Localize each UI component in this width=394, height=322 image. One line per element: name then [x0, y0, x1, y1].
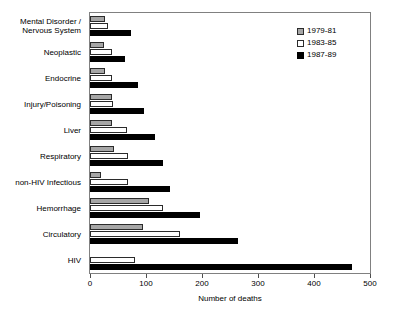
legend-item: 1983-85: [297, 38, 336, 48]
x-tick: [202, 274, 203, 278]
bar: [90, 186, 170, 192]
x-tick: [314, 274, 315, 278]
bar: [90, 127, 127, 133]
bar: [90, 108, 144, 114]
bar-chart: Mental Disorder / Nervous SystemNeoplast…: [0, 0, 394, 322]
bar: [90, 134, 155, 140]
legend: 1979-811983-851987-89: [297, 26, 336, 60]
legend-item: 1979-81: [297, 26, 336, 36]
bar: [90, 94, 112, 100]
bar-group: [90, 221, 370, 247]
bar-group: [90, 247, 370, 273]
category-label: Mental Disorder / Nervous System: [0, 13, 85, 39]
category-axis-labels: Mental Disorder / Nervous SystemNeoplast…: [0, 13, 85, 273]
x-tick-label: 300: [251, 279, 264, 288]
bar: [90, 30, 131, 36]
bar-group: [90, 143, 370, 169]
bar: [90, 120, 112, 126]
bar: [90, 264, 352, 270]
bar-group: [90, 117, 370, 143]
bar: [90, 212, 200, 218]
bar-group: [90, 169, 370, 195]
category-label: Respiratory: [0, 143, 85, 169]
bar: [90, 153, 128, 159]
category-label: Endocrine: [0, 65, 85, 91]
x-tick-label: 0: [88, 279, 92, 288]
bar: [90, 257, 135, 263]
bar: [90, 82, 138, 88]
x-tick-label: 100: [139, 279, 152, 288]
bar: [90, 101, 113, 107]
bar: [90, 205, 163, 211]
bar: [90, 198, 149, 204]
bar: [90, 23, 108, 29]
category-label: Injury/Poisoning: [0, 91, 85, 117]
bar-group: [90, 91, 370, 117]
legend-swatch-icon: [297, 52, 304, 59]
category-label: Neoplastic: [0, 39, 85, 65]
bar: [90, 75, 112, 81]
legend-item: 1987-89: [297, 50, 336, 60]
x-tick-label: 500: [363, 279, 376, 288]
x-tick: [258, 274, 259, 278]
bar-group: [90, 65, 370, 91]
bar: [90, 16, 105, 22]
x-axis-title: Number of deaths: [89, 294, 371, 303]
legend-label: 1983-85: [307, 38, 336, 48]
bar: [90, 68, 105, 74]
bar: [90, 231, 180, 237]
bar: [90, 224, 143, 230]
bar-group: [90, 195, 370, 221]
bar: [90, 172, 101, 178]
category-label: non-HIV Infectious: [0, 169, 85, 195]
category-label: Liver: [0, 117, 85, 143]
x-tick: [146, 274, 147, 278]
x-axis-tick-labels: 0100200300400500: [89, 279, 371, 291]
bar: [90, 146, 114, 152]
legend-label: 1979-81: [307, 26, 336, 36]
x-tick-label: 200: [195, 279, 208, 288]
category-label: Circulatory: [0, 221, 85, 247]
legend-label: 1987-89: [307, 50, 336, 60]
bar: [90, 56, 125, 62]
bar: [90, 160, 163, 166]
bar: [90, 238, 238, 244]
legend-swatch-icon: [297, 40, 304, 47]
bar: [90, 179, 128, 185]
x-tick-label: 400: [307, 279, 320, 288]
legend-swatch-icon: [297, 28, 304, 35]
category-label: Hemorrhage: [0, 195, 85, 221]
category-label: HIV: [0, 247, 85, 273]
x-tick: [370, 274, 371, 278]
x-tick: [90, 274, 91, 278]
bar: [90, 42, 104, 48]
bar: [90, 49, 112, 55]
